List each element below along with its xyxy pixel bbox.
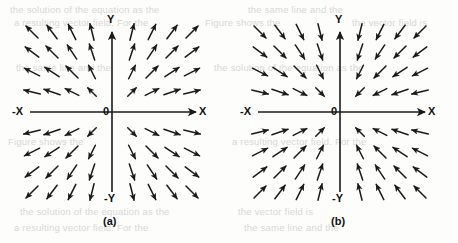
- field-vector-arrow: [26, 186, 38, 198]
- field-vector-arrow: [394, 166, 406, 178]
- field-vector-arrow: [25, 167, 39, 177]
- field-vector-arrow: [358, 24, 362, 41]
- field-vector-arrow: [376, 24, 384, 39]
- field-vector-arrow: [356, 128, 365, 137]
- field-vector-arrow: [146, 66, 158, 78]
- field-vector-arrow: [412, 68, 427, 76]
- field-vector-arrow: [253, 47, 267, 57]
- field-vector-arrow: [185, 47, 199, 57]
- field-vector-arrow: [252, 68, 267, 76]
- field-vector-arrow: [374, 66, 386, 78]
- panel-caption-a: (a): [103, 215, 116, 227]
- field-vector-arrow: [374, 146, 386, 158]
- field-vector-arrow: [252, 130, 269, 134]
- field-vector-arrow: [393, 147, 407, 156]
- field-vector-arrow: [273, 147, 287, 156]
- field-vector-arrow: [147, 45, 156, 59]
- field-vector-arrow: [254, 186, 266, 198]
- field-vector-arrow: [24, 68, 39, 76]
- field-vector-arrow: [128, 128, 137, 137]
- field-vector-arrow: [147, 165, 156, 179]
- field-vector-arrow: [47, 185, 57, 199]
- field-vector-arrow: [89, 145, 96, 159]
- field-vector-arrow: [293, 89, 307, 96]
- field-vector-arrow: [295, 165, 304, 179]
- field-vector-arrow: [392, 89, 408, 94]
- field-vector-arrow: [89, 65, 96, 79]
- field-vector-arrow: [395, 25, 405, 39]
- field-vector-arrow: [24, 90, 41, 94]
- field-vector-arrow: [395, 185, 405, 199]
- axis-label-y-positive-a: Y: [107, 13, 114, 25]
- field-vector-arrow: [129, 44, 134, 60]
- field-vector-arrow: [24, 130, 41, 134]
- field-vector-arrow: [66, 146, 78, 158]
- field-vector-arrow: [184, 148, 199, 156]
- field-vector-arrow: [317, 145, 324, 159]
- field-vector-arrow: [130, 24, 134, 41]
- field-vector-arrow: [167, 25, 177, 39]
- field-vector-arrow: [68, 24, 76, 39]
- field-vector-arrow: [414, 186, 426, 198]
- field-vector-arrow: [274, 46, 286, 58]
- field-vector-arrow: [357, 44, 362, 60]
- field-vector-arrow: [272, 129, 288, 134]
- field-vector-arrow: [375, 45, 384, 59]
- field-vector-arrow: [129, 65, 136, 79]
- field-vector-arrow: [44, 89, 60, 94]
- field-vector-arrow: [317, 65, 324, 79]
- field-vector-arrow: [67, 165, 76, 179]
- field-vector-arrow: [357, 145, 364, 159]
- field-vector-arrow: [293, 129, 307, 136]
- field-vector-arrow: [373, 129, 387, 136]
- field-vector-arrow: [89, 164, 94, 180]
- field-vector-arrow: [184, 90, 201, 94]
- field-vector-arrow: [393, 67, 407, 76]
- field-vector-arrow: [316, 88, 325, 97]
- field-vector-arrow: [318, 24, 322, 41]
- vector-field-panel-b: Y -Y X -X 0 (b): [229, 0, 458, 243]
- axis-label-x-positive-a: X: [199, 105, 206, 117]
- field-vector-arrow: [184, 68, 199, 76]
- field-vector-arrow: [253, 167, 267, 177]
- field-vector-arrow: [148, 24, 156, 39]
- axis-label-origin-a: 0: [103, 105, 109, 117]
- axis-label-y-negative-a: -Y: [104, 192, 115, 204]
- field-vector-arrow: [145, 129, 159, 136]
- panel-caption-b: (b): [331, 215, 345, 227]
- field-vector-arrow: [413, 167, 427, 177]
- field-vector-arrow: [128, 88, 137, 97]
- field-vector-arrow: [356, 88, 365, 97]
- field-vector-arrow: [148, 184, 156, 199]
- field-vector-arrow: [294, 66, 306, 78]
- field-vector-arrow: [88, 128, 97, 137]
- field-vector-arrow: [47, 25, 57, 39]
- field-vector-arrow: [254, 26, 266, 38]
- field-vector-arrow: [373, 89, 387, 96]
- field-vector-arrow: [66, 66, 78, 78]
- panel-a-canvas: [0, 0, 229, 243]
- field-vector-arrow: [317, 164, 322, 180]
- field-vector-arrow: [413, 47, 427, 57]
- field-vector-arrow: [90, 24, 94, 41]
- field-vector-arrow: [375, 165, 384, 179]
- vector-field-panel-a: Y -Y X -X 0 (a): [0, 0, 229, 243]
- field-vector-arrow: [68, 184, 76, 199]
- panel-b-canvas: [229, 0, 458, 243]
- field-vector-arrow: [412, 90, 429, 94]
- field-vector-arrow: [46, 46, 58, 58]
- field-vector-arrow: [252, 148, 267, 156]
- field-vector-arrow: [65, 89, 79, 96]
- field-vector-arrow: [392, 129, 408, 134]
- field-vector-arrow: [394, 46, 406, 58]
- field-vector-arrow: [185, 167, 199, 177]
- field-vector-arrow: [376, 184, 384, 199]
- field-vector-arrow: [272, 89, 288, 94]
- field-vector-arrow: [166, 46, 178, 58]
- axis-label-origin-b: 0: [331, 105, 337, 117]
- field-vector-arrow: [412, 130, 429, 134]
- field-vector-arrow: [165, 147, 179, 156]
- field-vector-arrow: [357, 65, 364, 79]
- field-vector-arrow: [165, 67, 179, 76]
- field-vector-arrow: [45, 67, 59, 76]
